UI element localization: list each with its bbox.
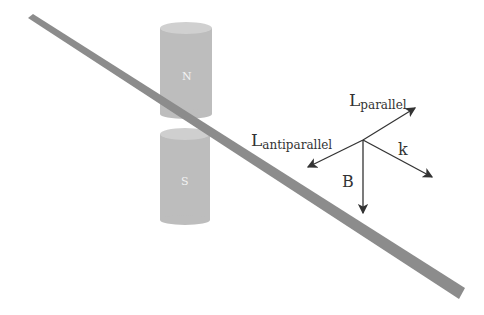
l-parallel-label: Lparallel: [349, 90, 407, 112]
k-label: k: [398, 140, 408, 159]
south-label: S: [181, 175, 189, 188]
l-parallel-arrow: [363, 108, 415, 140]
vector-group: [308, 108, 432, 213]
diagram-canvas: N S Lparallel Lantiparallel k B: [0, 0, 484, 315]
south-magnet: S: [160, 128, 210, 225]
north-label: N: [182, 70, 192, 83]
b-label: B: [342, 172, 354, 191]
l-antiparallel-label: Lantiparallel: [251, 130, 332, 152]
